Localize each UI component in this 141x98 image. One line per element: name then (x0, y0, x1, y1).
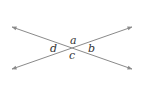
angle-label-c: c (69, 49, 75, 62)
angle-label-d: d (50, 42, 57, 55)
angle-label-a: a (70, 34, 77, 47)
intersecting-lines-diagram: a b c d (0, 0, 141, 98)
angle-label-b: b (88, 42, 95, 55)
